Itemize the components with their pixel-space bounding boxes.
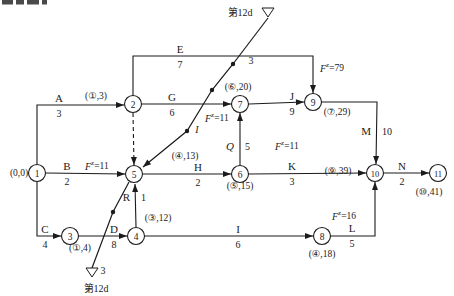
- arrowhead-dummy-2-5: [131, 157, 137, 165]
- float-label: Fz=11: [84, 159, 109, 172]
- arrowhead-M: [373, 156, 379, 164]
- node-number-6: 6: [238, 170, 243, 180]
- front-line-label: 3: [249, 55, 254, 66]
- node-time-label: (①,3): [85, 91, 107, 102]
- activity-duration-A: 3: [57, 108, 62, 119]
- activity-name-Q: Q: [226, 140, 234, 152]
- node-number-9: 9: [311, 98, 316, 108]
- node-number-10: 10: [371, 169, 380, 179]
- activity-duration-C: 4: [43, 239, 48, 250]
- activity-duration-K: 3: [290, 176, 295, 187]
- node-time-label: (④,18): [309, 249, 336, 260]
- node-number-3: 3: [68, 232, 73, 242]
- activity-name-B: B: [63, 160, 70, 172]
- node-time-label: (⑥,20): [225, 82, 252, 93]
- activity-name-G: G: [168, 91, 176, 103]
- edge-A: [37, 105, 124, 164]
- activity-duration-M: 10: [382, 126, 392, 137]
- front-line-label: I: [194, 124, 199, 135]
- node-time-label: (⑨,39): [325, 166, 352, 177]
- front-line-label: 第12d: [84, 282, 109, 294]
- node-number-8: 8: [320, 232, 325, 242]
- float-label: Fz=11: [204, 111, 229, 124]
- arrowhead-L: [372, 182, 378, 190]
- arrowhead-R: [132, 184, 138, 192]
- activity-name-J: J: [290, 90, 295, 102]
- node-time-label: (⑤,15): [227, 181, 254, 192]
- activity-duration-G: 6: [170, 107, 175, 118]
- arrowhead-Q: [237, 113, 243, 121]
- node-time-label: (0,0): [10, 168, 28, 179]
- node-number-5: 5: [132, 170, 137, 180]
- activity-duration-J: 9: [290, 106, 295, 117]
- day-marker-triangle: [86, 268, 98, 277]
- activity-duration-B: 2: [65, 176, 70, 187]
- cropped-text-fragment: [42, 0, 47, 5]
- arrowhead-I: [305, 233, 313, 239]
- arrowhead-B: [117, 171, 125, 177]
- arrowhead-E: [310, 85, 316, 93]
- cropped-text-fragment: [16, 0, 24, 5]
- cropped-text-fragment: [27, 0, 39, 5]
- network-diagram-figure: 第12d3I3第12d1234567891011A3B2C4D8E7G6H2I6…: [0, 0, 454, 296]
- arrowhead-J: [296, 99, 304, 105]
- activity-duration-N: 2: [400, 176, 405, 187]
- activity-name-D: D: [110, 223, 118, 235]
- front-line-dot: [111, 210, 115, 214]
- edge-J: [249, 102, 304, 104]
- node-time-label: (①,4): [69, 243, 91, 254]
- arrowhead-A: [116, 102, 124, 108]
- activity-name-L: L: [349, 222, 356, 234]
- front-line-dot: [231, 62, 235, 66]
- arrowhead-H: [223, 171, 231, 177]
- activity-name-C: C: [41, 223, 48, 235]
- activity-name-R: R: [123, 191, 131, 203]
- arrowhead-K: [358, 170, 366, 176]
- node-number-11: 11: [434, 169, 442, 179]
- activity-name-M: M: [361, 125, 371, 137]
- edge-B: [46, 173, 125, 174]
- activity-network-svg: 第12d3I3第12d1234567891011A3B2C4D8E7G6H2I6…: [0, 0, 454, 296]
- activity-duration-I: 6: [236, 239, 241, 250]
- activity-duration-R: 1: [141, 192, 146, 203]
- activity-name-K: K: [288, 160, 296, 172]
- node-time-label: (③,12): [145, 213, 172, 224]
- arrowhead-D: [119, 233, 127, 239]
- arrowhead-G: [223, 101, 231, 107]
- node-time-label: (⑩,41): [416, 187, 443, 198]
- activity-name-H: H: [194, 161, 202, 173]
- float-label: Fz=79: [319, 61, 344, 74]
- day-marker-triangle: [262, 8, 274, 17]
- node-number-2: 2: [131, 100, 136, 110]
- node-number-1: 1: [35, 169, 40, 179]
- activity-duration-L: 5: [350, 238, 355, 249]
- arrowhead-N: [421, 170, 429, 176]
- float-label: Fz=16: [331, 209, 356, 222]
- float-label: Fz=11: [274, 139, 299, 152]
- activity-duration-D: 8: [112, 239, 117, 250]
- activity-duration-E: 7: [178, 59, 183, 70]
- cropped-text-fragment: [2, 0, 13, 5]
- front-line-label: 第12d: [228, 6, 253, 18]
- activity-name-E: E: [177, 43, 184, 55]
- node-time-label: (⑦,29): [324, 107, 351, 118]
- activity-name-A: A: [55, 92, 63, 104]
- node-number-7: 7: [238, 100, 243, 110]
- front-line-dot: [185, 129, 189, 133]
- arrowhead-C: [53, 233, 61, 239]
- activity-name-I: I: [236, 223, 240, 235]
- activity-duration-H: 2: [196, 177, 201, 188]
- node-time-label: (④,13): [172, 151, 199, 162]
- activity-duration-Q: 5: [245, 141, 250, 152]
- front-line-dot: [210, 88, 214, 92]
- activity-name-N: N: [398, 160, 406, 172]
- node-number-4: 4: [134, 232, 139, 242]
- front-line-label: 3: [101, 265, 106, 276]
